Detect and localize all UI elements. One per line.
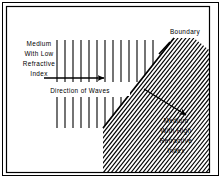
medium-low-label-line2: With Low — [24, 50, 53, 57]
boundary-label: Boundary — [170, 28, 201, 36]
medium-low-label-line3: Refractive — [23, 60, 55, 67]
medium-high-label-line4: Index — [167, 147, 185, 154]
diagram-canvas: Medium With Low Refractive Index Directi… — [0, 0, 224, 180]
refraction-diagram-figure: Medium With Low Refractive Index Directi… — [0, 0, 224, 180]
medium-low-label-line1: Medium — [27, 40, 52, 47]
medium-high-label-line1: Medium — [164, 117, 189, 124]
medium-high-label-line3: Refractive — [160, 137, 192, 144]
medium-high-label-line2: With High — [161, 127, 192, 135]
direction-of-waves-label: Direction of Waves — [50, 87, 110, 94]
medium-low-label-line4: Index — [30, 70, 48, 77]
